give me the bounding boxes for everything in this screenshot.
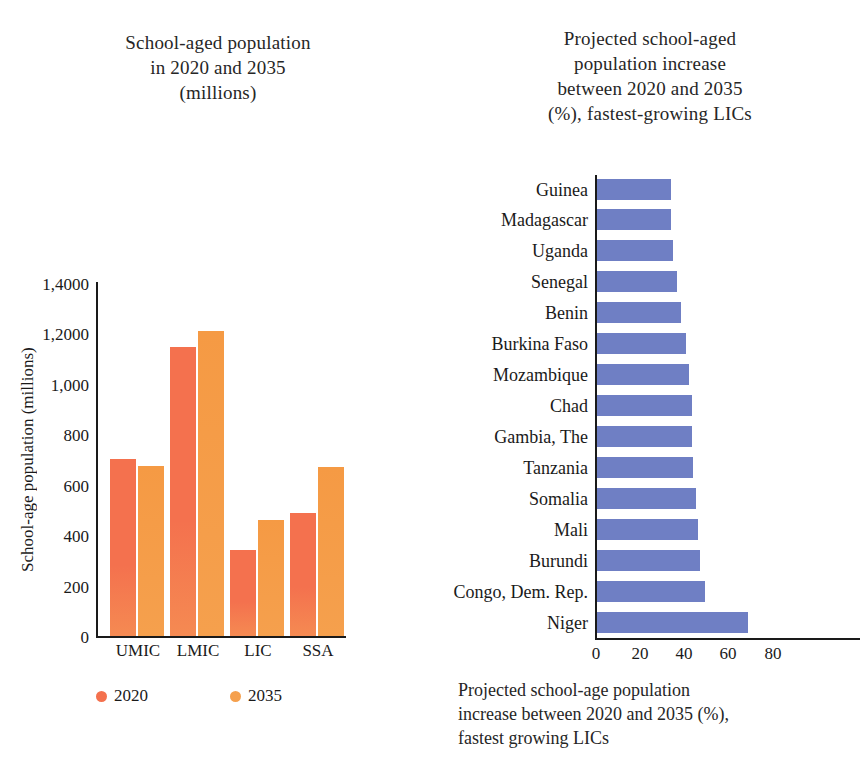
left-title-line-2: in 2020 and 2035 [18,55,418,80]
table-row[interactable]: Madagascar [597,209,671,230]
table-row[interactable]: Burkina Faso [597,333,686,354]
table-row[interactable]: Gambia, The [597,426,692,447]
bar-niger[interactable] [597,612,748,633]
legend-label-2020: 2020 [114,686,148,706]
country-label-benin: Benin [545,303,588,322]
right-chart-title: Projected school-aged population increas… [450,26,850,126]
table-row[interactable]: Niger [597,612,748,633]
right-title-line-3: between 2020 and 2035 [450,76,850,101]
bar-lmic-2035[interactable] [198,331,224,636]
x-category-ssa: SSA [302,642,333,660]
left-chart-legend: 2020 2035 [96,686,356,706]
table-row[interactable]: Guinea [597,179,671,200]
left-y-tick-400: 400 [64,528,90,545]
country-label-uganda: Uganda [532,241,588,260]
bar-somalia[interactable] [597,488,696,509]
left-title-line-1: School-aged population [18,30,418,55]
x-category-lic: LIC [244,642,271,660]
country-label-niger: Niger [547,613,588,632]
right-plot-area: Guinea Madagascar Uganda Senegal Benin B… [595,175,860,640]
right-x-axis-label: Projected school-age population increase… [458,678,858,750]
bar-madagascar[interactable] [597,209,671,230]
right-x-axis-line [595,638,860,640]
bar-lmic-2020[interactable] [170,347,196,636]
country-label-congo-dem-rep: Congo, Dem. Rep. [454,582,589,601]
bar-tanzania[interactable] [597,457,693,478]
right-title-line-1: Projected school-aged [450,26,850,51]
bar-ssa-2035[interactable] [318,467,344,636]
left-y-tick-1200: 1,2000 [42,326,89,343]
right-xlabel-line-2: increase between 2020 and 2035 (%), [458,702,858,726]
legend-dot-icon-2035 [230,691,241,702]
right-chart-panel: Projected school-aged population increas… [436,0,866,773]
country-label-guinea: Guinea [536,180,588,199]
bar-gambia-the[interactable] [597,426,692,447]
left-y-tick-0: 0 [81,629,90,646]
bar-chad[interactable] [597,395,692,416]
left-chart-panel: School-aged population in 2020 and 2035 … [0,0,436,773]
country-label-mali: Mali [554,520,588,539]
left-y-tick-600: 600 [64,478,90,495]
bar-congo-dem-rep[interactable] [597,581,705,602]
left-y-axis-label: School-age population (millions) [18,282,38,638]
left-title-line-3: (millions) [18,80,418,105]
left-y-tick-800: 800 [64,427,90,444]
bar-group-lic: LIC [230,520,284,636]
bar-uganda[interactable] [597,240,673,261]
bar-mali[interactable] [597,519,698,540]
bar-benin[interactable] [597,302,681,323]
bar-umic-2020[interactable] [110,459,136,636]
country-label-burkina-faso: Burkina Faso [492,334,589,353]
right-x-tick-40: 40 [676,645,693,663]
legend-item-2020[interactable]: 2020 [96,686,148,706]
table-row[interactable]: Mali [597,519,698,540]
bar-umic-2035[interactable] [138,466,164,636]
bar-ssa-2020[interactable] [290,513,316,636]
country-label-gambia-the: Gambia, The [494,427,588,446]
table-row[interactable]: Chad [597,395,692,416]
left-plot-area: 1,4000 1,2000 1,000 800 600 400 200 0 UM… [96,282,346,638]
table-row[interactable]: Congo, Dem. Rep. [597,581,705,602]
bar-guinea[interactable] [597,179,671,200]
bar-mozambique[interactable] [597,364,689,385]
left-y-axis-line [96,282,98,638]
bar-burkina-faso[interactable] [597,333,686,354]
bar-group-ssa: SSA [290,467,344,636]
left-chart-title: School-aged population in 2020 and 2035 … [18,30,418,105]
figure-container: School-aged population in 2020 and 2035 … [0,0,866,773]
bar-group-umic: UMIC [110,459,164,636]
country-label-madagascar: Madagascar [501,210,588,229]
right-x-tick-80: 80 [765,645,782,663]
legend-dot-icon-2020 [96,691,107,702]
bar-group-lmic: LMIC [170,331,224,636]
table-row[interactable]: Mozambique [597,364,689,385]
bar-senegal[interactable] [597,271,677,292]
right-x-tick-20: 20 [632,645,649,663]
bar-lic-2020[interactable] [230,550,256,636]
country-label-somalia: Somalia [529,489,588,508]
right-title-line-2: population increase [450,51,850,76]
table-row[interactable]: Senegal [597,271,677,292]
right-title-line-4: (%), fastest-growing LICs [450,101,850,126]
table-row[interactable]: Somalia [597,488,696,509]
right-xlabel-line-3: fastest growing LICs [458,726,858,750]
country-label-burundi: Burundi [529,551,588,570]
country-label-senegal: Senegal [531,272,588,291]
right-xlabel-line-1: Projected school-age population [458,678,858,702]
bar-burundi[interactable] [597,550,700,571]
right-x-tick-60: 60 [720,645,737,663]
table-row[interactable]: Uganda [597,240,673,261]
table-row[interactable]: Benin [597,302,681,323]
bar-lic-2035[interactable] [258,520,284,636]
left-y-tick-200: 200 [64,579,90,596]
legend-label-2035: 2035 [248,686,282,706]
country-label-tanzania: Tanzania [523,458,588,477]
left-x-axis-line [96,636,346,638]
left-y-tick-1400: 1,4000 [42,276,89,293]
table-row[interactable]: Tanzania [597,457,693,478]
right-x-tick-0: 0 [592,645,601,663]
table-row[interactable]: Burundi [597,550,700,571]
left-y-tick-1000: 1,000 [51,377,89,394]
x-category-umic: UMIC [116,642,160,660]
legend-item-2035[interactable]: 2035 [230,686,282,706]
